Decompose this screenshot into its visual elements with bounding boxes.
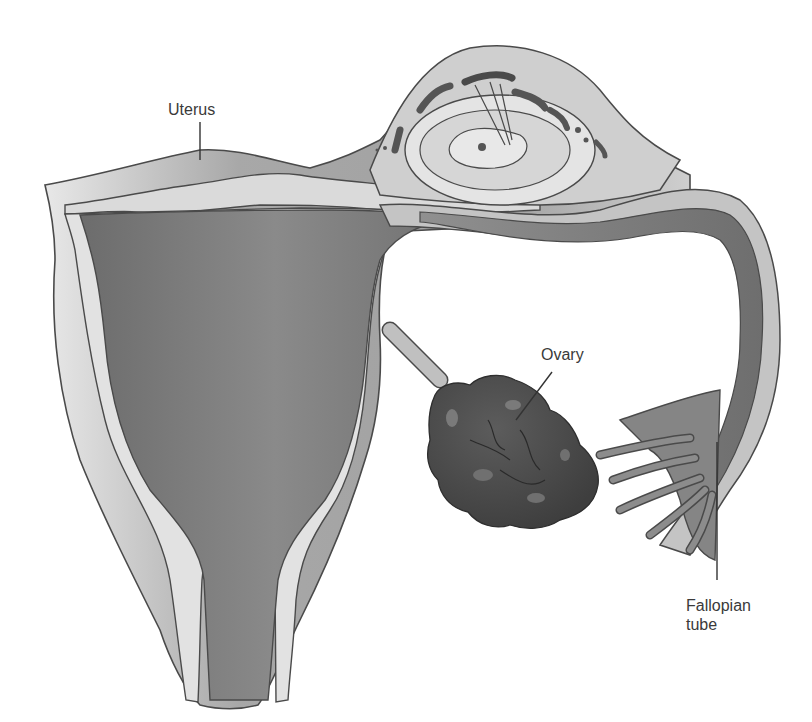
label-ovary: Ovary [541,345,584,364]
ovary [428,375,599,528]
reproductive-anatomy-diagram: Uterus Ovary Fallopian tube [0,0,812,722]
label-fallopian-tube: Fallopian tube [686,596,751,634]
embryo-implantation [370,46,680,205]
label-uterus: Uterus [168,100,215,119]
